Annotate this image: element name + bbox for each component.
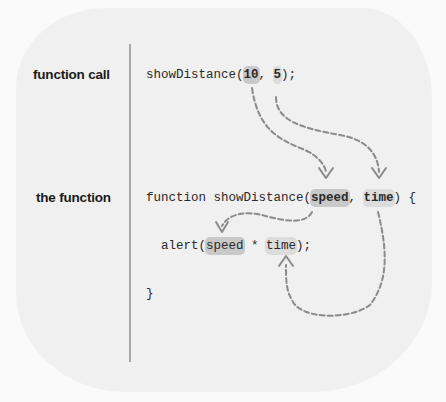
arrow-param-speed-to-use [222, 212, 312, 226]
arrow-param-time-to-use [286, 212, 385, 316]
arrow-5-to-time [276, 97, 379, 172]
arrowhead-down-body-speed [216, 222, 228, 232]
flow-arrows [0, 0, 446, 402]
